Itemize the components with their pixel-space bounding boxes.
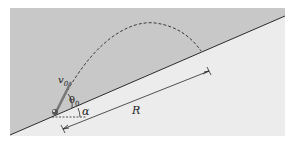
label-range: R bbox=[131, 104, 140, 117]
projectile-ball bbox=[52, 109, 58, 115]
label-alpha: α bbox=[82, 105, 90, 118]
projectile-highlight bbox=[53, 110, 55, 112]
projectile-incline-diagram: v0 θ0 α R bbox=[0, 0, 291, 144]
